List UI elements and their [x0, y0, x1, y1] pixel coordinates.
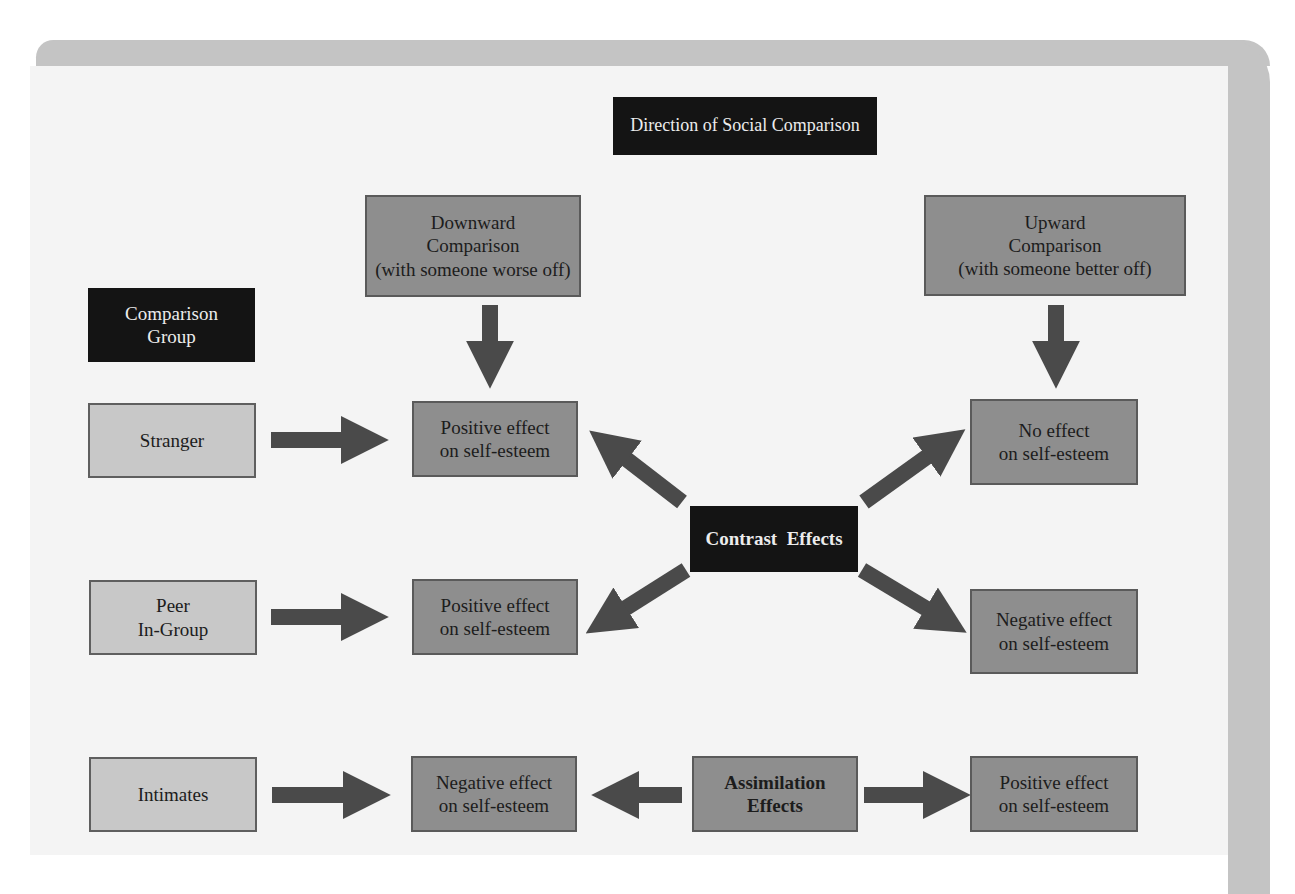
peer-upward-effect-box: Negative effect on self-esteem: [970, 589, 1138, 674]
downward-line-3: (with someone worse off): [375, 258, 570, 281]
effect-line-1: No effect: [1019, 419, 1090, 442]
upward-line-2: Comparison: [1009, 234, 1102, 257]
effect-line-1: Positive effect: [441, 594, 550, 617]
intimates-text: Intimates: [138, 783, 209, 806]
direction-of-social-comparison-label: Direction of Social Comparison: [613, 97, 877, 155]
intimates-box: Intimates: [89, 757, 257, 832]
assimilation-effects-box: Assimilation Effects: [692, 756, 858, 832]
downward-comparison-box: Downward Comparison (with someone worse …: [365, 195, 581, 297]
arrow-contrast-lower-left: [610, 570, 686, 618]
effect-line-1: Negative effect: [996, 608, 1112, 631]
arrow-contrast-lower-right: [862, 570, 942, 618]
comparison-group-line-2: Group: [147, 325, 196, 348]
upward-line-3: (with someone better off): [958, 257, 1151, 280]
downward-line-2: Comparison: [427, 234, 520, 257]
peer-downward-effect-box: Positive effect on self-esteem: [412, 579, 578, 655]
arrow-contrast-upper-right: [864, 446, 942, 502]
comparison-group-label: Comparison Group: [88, 288, 255, 362]
assimilation-line-2: Effects: [747, 794, 803, 817]
stranger-text: Stranger: [140, 429, 204, 452]
effect-line-2: on self-esteem: [999, 794, 1109, 817]
assimilation-line-1: Assimilation: [724, 771, 825, 794]
effect-line-1: Negative effect: [436, 771, 552, 794]
contrast-effects-text: Contrast Effects: [705, 527, 842, 550]
effect-line-1: Positive effect: [441, 416, 550, 439]
direction-title-text: Direction of Social Comparison: [630, 115, 859, 137]
downward-line-1: Downward: [431, 211, 515, 234]
upward-line-1: Upward: [1024, 211, 1085, 234]
comparison-group-line-1: Comparison: [125, 302, 218, 325]
contrast-effects-box: Contrast Effects: [690, 506, 858, 572]
stranger-downward-effect-box: Positive effect on self-esteem: [412, 401, 578, 477]
upward-comparison-box: Upward Comparison (with someone better o…: [924, 195, 1186, 296]
arrow-contrast-upper-left: [612, 448, 682, 502]
peer-line-2: In-Group: [138, 618, 209, 641]
intimates-upward-effect-box: Positive effect on self-esteem: [970, 756, 1138, 832]
effect-line-2: on self-esteem: [440, 439, 550, 462]
peer-line-1: Peer: [156, 594, 190, 617]
effect-line-2: on self-esteem: [999, 442, 1109, 465]
effect-line-2: on self-esteem: [999, 632, 1109, 655]
effect-line-2: on self-esteem: [439, 794, 549, 817]
effect-line-1: Positive effect: [1000, 771, 1109, 794]
intimates-downward-effect-box: Negative effect on self-esteem: [411, 756, 577, 832]
stranger-upward-effect-box: No effect on self-esteem: [970, 399, 1138, 485]
stranger-box: Stranger: [88, 403, 256, 478]
effect-line-2: on self-esteem: [440, 617, 550, 640]
peer-in-group-box: Peer In-Group: [89, 580, 257, 655]
